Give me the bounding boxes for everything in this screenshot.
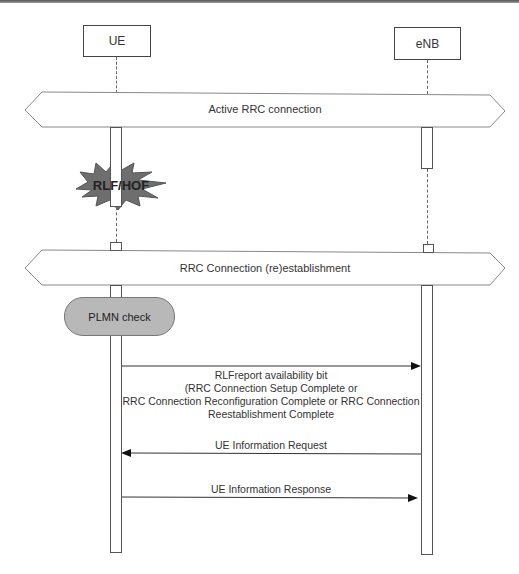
ue-activation-stub xyxy=(110,242,122,251)
enb-activation-bar-2 xyxy=(421,285,433,555)
rlf-hof-label: RLF/HOF xyxy=(76,178,166,193)
enb-activation-stub xyxy=(423,244,434,253)
msg1-line-1: RLFreport availability bit xyxy=(121,369,421,382)
band-active-rrc-label: Active RRC connection xyxy=(25,103,505,115)
plmn-check-process: PLMN check xyxy=(64,297,175,336)
ue-activation-bar-1 xyxy=(110,127,122,207)
enb-activation-bar-1 xyxy=(421,127,433,169)
msg1-line-4: Reestablishment Complete xyxy=(121,408,421,421)
enb-lifeline-middle xyxy=(427,169,428,244)
plmn-check-label: PLMN check xyxy=(88,311,150,323)
band-rrc-reestablishment-label: RRC Connection (re)establishment xyxy=(25,262,505,274)
msg3-label: UE Information Response xyxy=(121,483,421,496)
msg1-label: RLFreport availability bit (RRC Connecti… xyxy=(121,369,421,421)
msg2-label: UE Information Request xyxy=(121,439,421,452)
msg1-line-2: (RRC Connection Setup Complete or xyxy=(121,382,421,395)
msg1-line-3: RRC Connection Reconfiguration Complete … xyxy=(121,395,421,408)
ue-lifeline-middle xyxy=(116,207,117,242)
